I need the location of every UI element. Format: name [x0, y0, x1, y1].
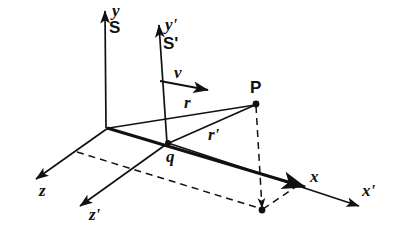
point-label-p: P	[250, 79, 261, 96]
dashed-base-line-right	[263, 186, 297, 209]
frame-label-s-prime: S'	[163, 35, 178, 52]
axis-label-z-prime: z'	[89, 206, 100, 223]
physics-diagram: y S y' S' v P r r' q z z' x x'	[0, 0, 403, 238]
vector-v-line	[160, 81, 208, 90]
point-P-projection-marker	[259, 207, 266, 214]
axis-y-line	[105, 11, 106, 128]
diagram-canvas	[0, 0, 403, 238]
point-P-marker	[253, 101, 260, 108]
dashed-drop-line-p	[256, 106, 262, 208]
axis-label-x-prime: x'	[362, 182, 375, 199]
point-label-q: q	[166, 148, 175, 165]
vector-label-v: v	[174, 64, 182, 81]
vector-r-line	[109, 105, 255, 128]
axis-z-line	[36, 128, 108, 179]
axis-z-prime-line	[80, 143, 168, 206]
axis-label-z: z	[39, 182, 46, 199]
axis-label-x: x	[310, 168, 319, 185]
axis-label-y: y	[112, 2, 120, 19]
axis-label-y-prime: y'	[165, 16, 177, 33]
axis-x-prime-line	[168, 143, 359, 206]
frame-label-s: S	[109, 19, 120, 36]
point-q-marker	[165, 140, 171, 146]
vector-label-r-prime: r'	[208, 126, 219, 143]
vector-label-r: r	[184, 94, 191, 111]
